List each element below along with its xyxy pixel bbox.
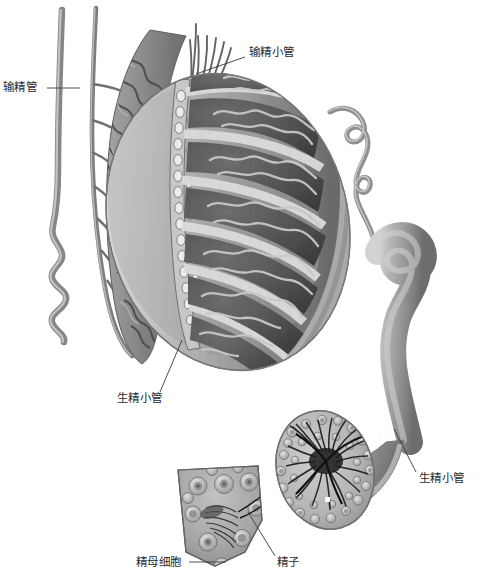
vas-deferens-tube <box>51 10 67 342</box>
label-spermatocyte: 精母细胞 <box>136 556 182 569</box>
anatomy-figure: 输精管 输精小管 生精小管 生精小管 精母细胞 精子 <box>0 0 481 582</box>
label-seminiferous-tubule-right: 生精小管 <box>419 472 465 485</box>
wall-wedge-detail <box>178 463 268 574</box>
label-seminiferous-tubule-left: 生精小管 <box>117 392 163 405</box>
leader-seminiferous-left <box>160 340 182 392</box>
tubule-cross-section <box>262 399 387 541</box>
label-spermatozoa: 精子 <box>277 556 300 569</box>
anatomy-illustration <box>0 0 481 582</box>
label-vas-deferens: 输精管 <box>3 81 37 94</box>
label-efferent-ductules: 输精小管 <box>249 46 295 59</box>
